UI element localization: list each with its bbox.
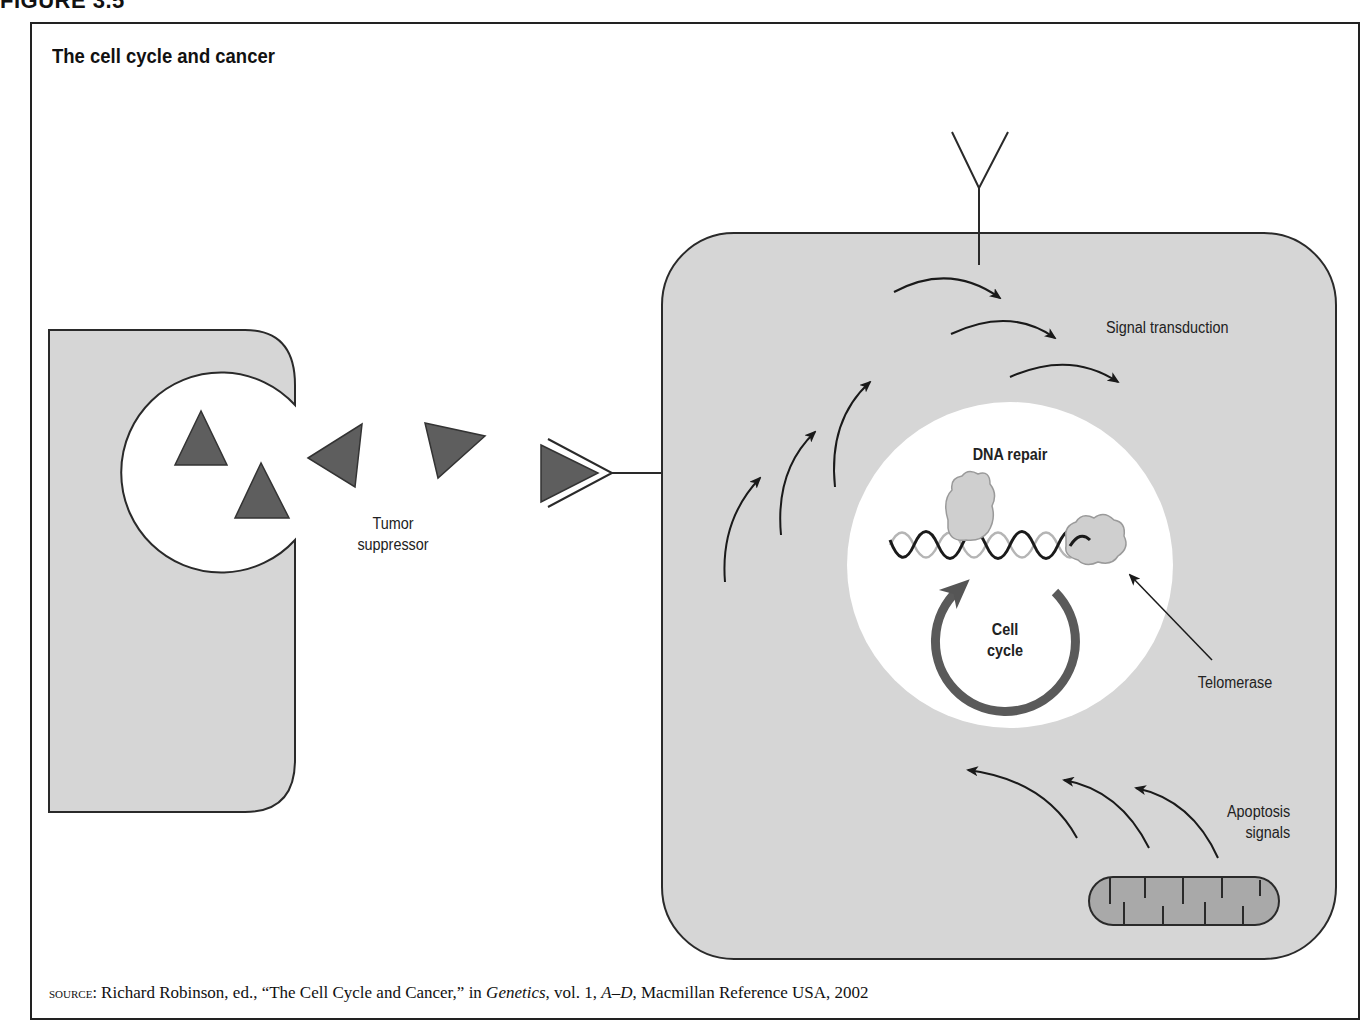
telomerase-label: Telomerase	[1186, 672, 1285, 693]
cell-cycle-label: Cell cycle	[969, 619, 1041, 661]
cell-cycle-line2: cycle	[969, 640, 1041, 661]
tumor-suppressor-triangle	[308, 424, 362, 487]
mitochondrion-icon	[1089, 877, 1279, 925]
apoptosis-line1: Apoptosis	[1205, 801, 1291, 822]
dna-repair-protein-icon	[946, 471, 995, 540]
tumor-suppressor-label: Tumor suppressor	[344, 513, 443, 555]
source-text-3: , Macmillan Reference USA, 2002	[633, 983, 869, 1002]
tumor-suppressor-triangle	[425, 423, 485, 478]
cell-cycle-diagram	[0, 0, 1367, 1031]
cell-cycle-line1: Cell	[969, 619, 1041, 640]
tumor-suppressor-text: Tumor suppressor	[353, 513, 434, 555]
source-volume-range: A–D	[601, 983, 632, 1002]
tumor-suppressor-triangle	[235, 463, 289, 518]
apoptosis-signals-label: Apoptosis signals	[1205, 801, 1291, 843]
source-citation: source: Richard Robinson, ed., “The Cell…	[49, 983, 869, 1003]
apoptosis-line2: signals	[1205, 822, 1291, 843]
left-cell	[49, 330, 295, 812]
tumor-suppressor-triangle	[175, 411, 227, 465]
dna-repair-label: DNA repair	[961, 444, 1060, 465]
source-book-title: Genetics	[486, 983, 545, 1002]
signal-transduction-label: Signal transduction	[1106, 317, 1250, 338]
source-text-1: Richard Robinson, ed., “The Cell Cycle a…	[97, 983, 486, 1002]
source-text-2: , vol. 1,	[546, 983, 602, 1002]
source-prefix: source:	[49, 984, 97, 1001]
